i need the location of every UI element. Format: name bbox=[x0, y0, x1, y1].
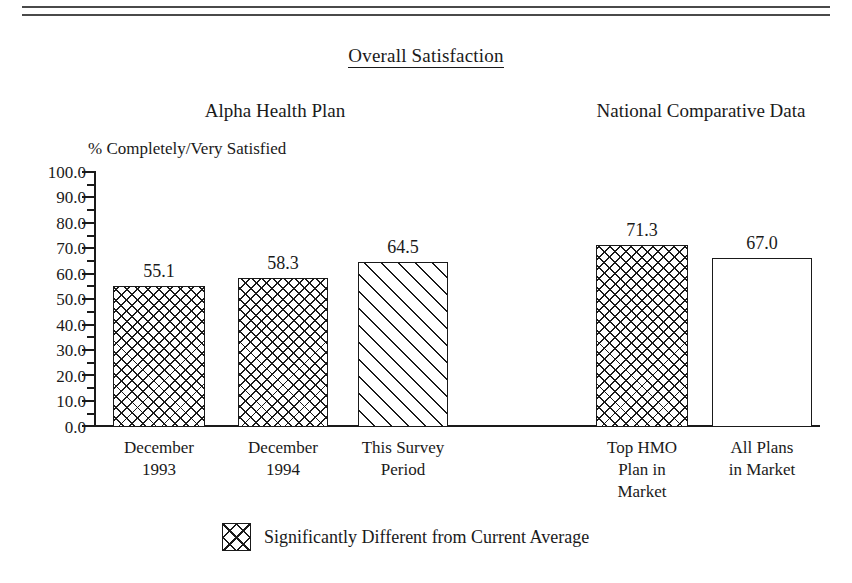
x-axis-label-all-plans-in-market: All Plans in Market bbox=[702, 437, 822, 481]
y-tick-label: 60.0 bbox=[0, 266, 86, 283]
x-axis-label-line: December bbox=[223, 437, 343, 459]
bar-december-1994[interactable] bbox=[238, 278, 328, 428]
y-axis-tick-major bbox=[82, 171, 96, 173]
y-tick-label: 50.0 bbox=[0, 291, 86, 308]
x-axis-label-line: 1993 bbox=[99, 459, 219, 481]
x-axis-label-line: December bbox=[99, 437, 219, 459]
x-axis-label-line: All Plans bbox=[702, 437, 822, 459]
bar-value-top-hmo-plan-in-market: 71.3 bbox=[596, 220, 688, 241]
x-axis-label-line: Top HMO bbox=[582, 437, 702, 459]
y-tick-label: 70.0 bbox=[0, 240, 86, 257]
y-axis-tick-minor bbox=[87, 413, 96, 415]
chart-legend: Significantly Different from Current Ave… bbox=[222, 523, 589, 551]
y-axis-tick-major bbox=[82, 298, 96, 300]
bar-value-december-1994: 58.3 bbox=[238, 253, 328, 274]
y-axis-tick-minor bbox=[87, 311, 96, 313]
y-tick-label: 0.0 bbox=[0, 419, 86, 436]
y-axis-tick-minor bbox=[87, 362, 96, 364]
y-tick-label: 90.0 bbox=[0, 189, 86, 206]
y-tick-label: 30.0 bbox=[0, 342, 86, 359]
x-axis-label-this-survey-period: This Survey Period bbox=[343, 437, 463, 481]
chart-plot-area: 100.0 90.0 80.0 70.0 60.0 50.0 40.0 30.0… bbox=[0, 0, 852, 583]
y-axis-tick-minor bbox=[87, 209, 96, 211]
x-axis-label-line: Market bbox=[582, 481, 702, 503]
y-tick-label: 20.0 bbox=[0, 368, 86, 385]
bar-this-survey-period[interactable] bbox=[358, 262, 448, 427]
y-axis-tick-minor bbox=[87, 184, 96, 186]
bar-all-plans-in-market[interactable] bbox=[712, 258, 812, 428]
bar-value-december-1993: 55.1 bbox=[113, 261, 205, 282]
y-axis-tick-major bbox=[82, 247, 96, 249]
x-axis-label-line: Plan in bbox=[582, 459, 702, 481]
y-axis-tick-major bbox=[82, 222, 96, 224]
bar-top-hmo-plan-in-market[interactable] bbox=[596, 245, 688, 427]
y-axis-tick-major bbox=[82, 400, 96, 402]
y-axis-tick-major bbox=[82, 425, 96, 427]
y-tick-label: 100.0 bbox=[0, 164, 86, 181]
y-axis-tick-minor bbox=[87, 387, 96, 389]
y-axis-tick-minor bbox=[87, 235, 96, 237]
y-axis-tick-major bbox=[82, 374, 96, 376]
x-axis-label-line: Period bbox=[343, 459, 463, 481]
x-axis-label-december-1993: December 1993 bbox=[99, 437, 219, 481]
legend-swatch-crosshatch-icon bbox=[222, 523, 251, 551]
y-axis-tick-major bbox=[82, 273, 96, 275]
x-axis-label-line: 1994 bbox=[223, 459, 343, 481]
y-axis-tick-major bbox=[82, 196, 96, 198]
y-tick-label: 80.0 bbox=[0, 215, 86, 232]
y-axis-tick-major bbox=[82, 349, 96, 351]
y-axis-tick-minor bbox=[87, 260, 96, 262]
x-axis-label-top-hmo-plan-in-market: Top HMO Plan in Market bbox=[582, 437, 702, 502]
bar-value-this-survey-period: 64.5 bbox=[358, 237, 448, 258]
bar-value-all-plans-in-market: 67.0 bbox=[712, 233, 812, 254]
y-axis-tick-minor bbox=[87, 336, 96, 338]
y-axis-tick-minor bbox=[87, 285, 96, 287]
x-axis-label-line: This Survey bbox=[343, 437, 463, 459]
y-axis-tick-labels: 100.0 90.0 80.0 70.0 60.0 50.0 40.0 30.0… bbox=[0, 0, 86, 583]
y-tick-label: 10.0 bbox=[0, 393, 86, 410]
y-axis-tick-major bbox=[82, 324, 96, 326]
legend-label: Significantly Different from Current Ave… bbox=[264, 527, 589, 548]
x-axis-label-line: in Market bbox=[702, 459, 822, 481]
bar-december-1993[interactable] bbox=[113, 286, 205, 427]
x-axis-label-december-1994: December 1994 bbox=[223, 437, 343, 481]
y-tick-label: 40.0 bbox=[0, 317, 86, 334]
